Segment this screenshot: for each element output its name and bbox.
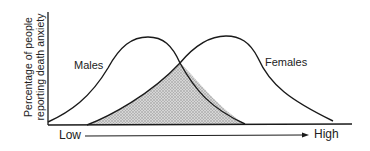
- x-low-label: Low: [59, 130, 81, 141]
- females-label: Females: [265, 57, 307, 68]
- males-label: Males: [74, 60, 103, 71]
- y-axis-label: Percentage of people reporting death anx…: [22, 7, 46, 127]
- y-axis-label-line1: Percentage of people: [22, 7, 34, 127]
- x-scale-arrow-line: [85, 135, 302, 136]
- y-axis-label-line2: reporting death anxiety: [34, 7, 46, 127]
- x-high-label: High: [314, 129, 339, 140]
- overlap-shaded-region: [87, 63, 245, 125]
- death-anxiety-figure: Percentage of people reporting death anx…: [0, 0, 370, 151]
- arrow-head-icon: [302, 133, 309, 138]
